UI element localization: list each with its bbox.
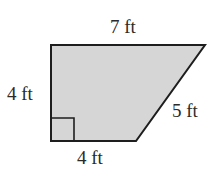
label-top: 7 ft [110,16,137,37]
label-bottom: 4 ft [77,147,104,168]
label-left: 4 ft [7,83,34,104]
trapezoid-diagram: 7 ft 4 ft 5 ft 4 ft [0,0,210,175]
label-slant: 5 ft [172,100,199,121]
